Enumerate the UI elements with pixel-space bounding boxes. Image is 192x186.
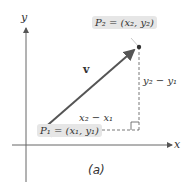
point1-label: P₁ = (x₁, y₁) [37, 124, 102, 137]
x-axis-label: x [174, 138, 180, 151]
vertical-leg-label: y₂ − y₁ [143, 75, 177, 86]
right-angle-marker [131, 122, 139, 130]
vector-diagram: y x v P₂ = (x₂, y₂) P₁ = (x₁, y₁) x₂ − x… [0, 0, 192, 186]
horizontal-leg-label: x₂ − x₁ [79, 112, 113, 123]
y-axis-label: y [21, 11, 27, 24]
figure-caption: (a) [88, 163, 105, 177]
point-p2 [137, 45, 141, 49]
vector-label: v [83, 63, 89, 76]
point2-label: P₂ = (x₂, y₂) [92, 16, 157, 29]
